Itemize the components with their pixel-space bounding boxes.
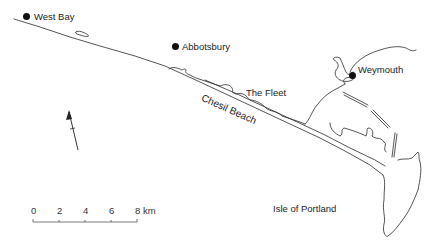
isle-of-portland-outline bbox=[383, 152, 421, 236]
west-bay-label: West Bay bbox=[34, 12, 74, 22]
breakwater-2 bbox=[371, 110, 390, 128]
chesil-beach-inner bbox=[205, 80, 385, 166]
isle-of-portland-label: Isle of Portland bbox=[273, 204, 336, 214]
scale-tick-0: 0 bbox=[31, 206, 36, 216]
north-arrow-icon bbox=[64, 108, 84, 154]
breakwater-1 bbox=[343, 92, 368, 107]
breakwater-3 bbox=[392, 133, 397, 157]
scale-tick-4: 4 bbox=[83, 206, 88, 216]
scale-tick-2: 2 bbox=[57, 206, 62, 216]
abbotsbury-label: Abbotsbury bbox=[182, 42, 230, 52]
scale-bar: 0 2 4 6 8 km bbox=[28, 206, 168, 226]
west-bay-marker bbox=[23, 13, 30, 20]
scale-unit: km bbox=[143, 206, 156, 216]
abbotsbury-marker bbox=[172, 43, 179, 50]
west-bay-islet bbox=[76, 31, 89, 36]
the-fleet-label: The Fleet bbox=[246, 88, 286, 98]
scale-line bbox=[28, 218, 148, 224]
scale-tick-6: 6 bbox=[109, 206, 114, 216]
scale-tick-8: 8 bbox=[135, 206, 140, 216]
weymouth-marker bbox=[349, 72, 356, 79]
weymouth-harbour bbox=[333, 57, 354, 84]
mainland-east bbox=[305, 84, 345, 124]
weymouth-label: Weymouth bbox=[358, 65, 403, 75]
